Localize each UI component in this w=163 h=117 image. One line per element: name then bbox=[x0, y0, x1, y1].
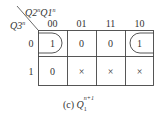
kmap-cell: × bbox=[67, 67, 96, 77]
kmap-cell: 1 bbox=[38, 39, 67, 49]
col-header: 11 bbox=[96, 19, 125, 29]
kmap-cell: × bbox=[125, 67, 154, 77]
kmap-cell: 0 bbox=[67, 39, 96, 49]
kmap-cell: 0 bbox=[96, 39, 125, 49]
kmap-cell: 0 bbox=[38, 67, 67, 77]
col-header: 01 bbox=[67, 19, 96, 29]
row-var-label: Q3n bbox=[10, 18, 25, 31]
col-header: 00 bbox=[38, 19, 67, 29]
col-var-label: Q2nQ1n bbox=[25, 5, 55, 18]
col-header: 10 bbox=[125, 19, 154, 29]
kmap-cell: × bbox=[96, 67, 125, 77]
caption: (c) Q1n+1 bbox=[63, 97, 94, 114]
kmap-cell: 1 bbox=[125, 39, 154, 49]
row-header: 1 bbox=[26, 67, 36, 77]
row-header: 0 bbox=[26, 39, 36, 49]
